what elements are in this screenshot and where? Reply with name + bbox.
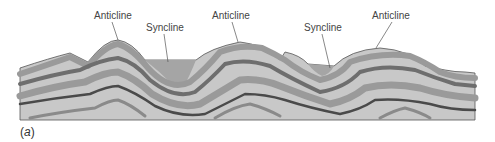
leader-syncline-2 [322, 34, 330, 68]
label-anticline-2: Anticline [212, 10, 250, 21]
folded-strata-figure [0, 0, 495, 142]
figure-caption: (a) [20, 125, 35, 139]
label-anticline-1: Anticline [94, 10, 132, 21]
leader-anticline-1 [112, 22, 118, 40]
leader-syncline-1 [164, 34, 168, 62]
label-anticline-3: Anticline [372, 10, 410, 21]
leader-anticline-2 [232, 22, 238, 42]
leader-anticline-3 [376, 22, 392, 48]
label-syncline-2: Syncline [304, 22, 342, 33]
label-syncline-1: Syncline [146, 22, 184, 33]
